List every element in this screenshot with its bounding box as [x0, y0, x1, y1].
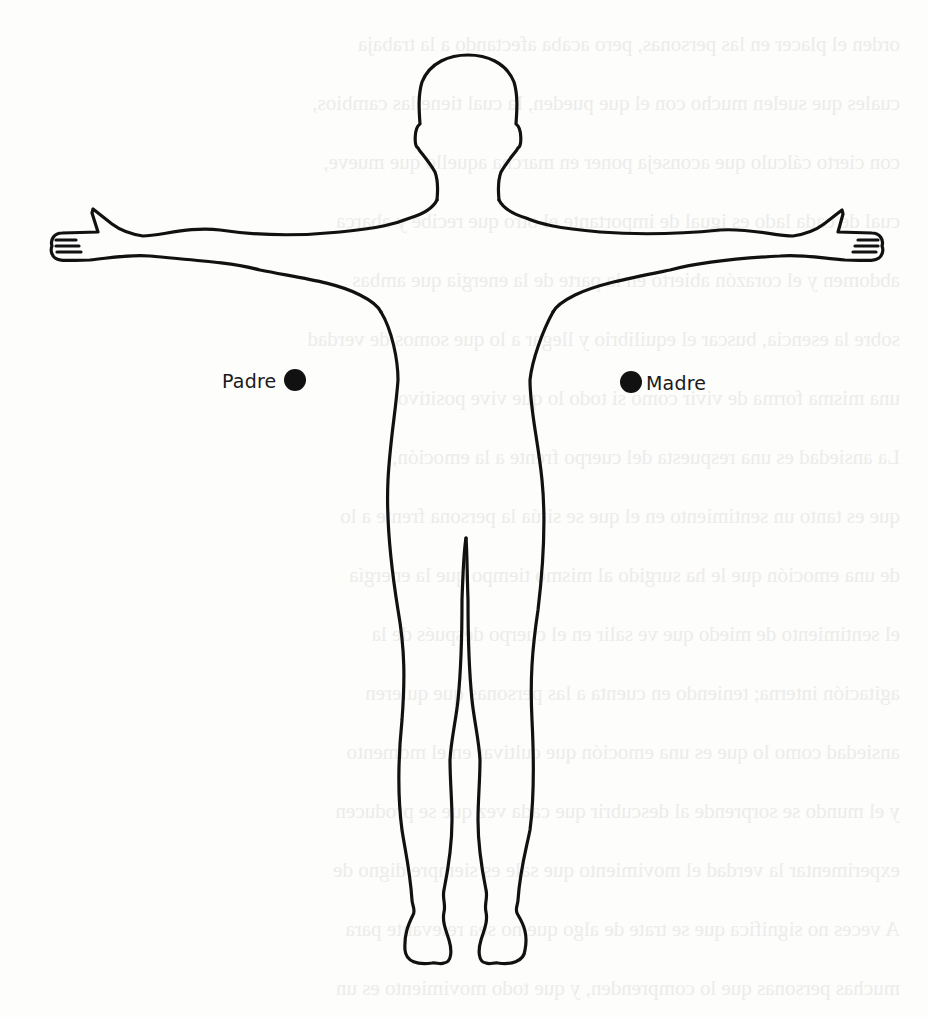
right-fingers — [853, 240, 878, 252]
left-fingers — [56, 240, 81, 252]
right-torso-leg-outline — [466, 312, 553, 964]
padre-point-marker — [284, 369, 306, 391]
left-arm-outline — [51, 200, 437, 312]
head-outline — [415, 55, 521, 200]
madre-label: Madre — [646, 372, 706, 394]
madre-point-marker — [620, 371, 642, 393]
right-arm-outline — [499, 200, 883, 312]
padre-label: Padre — [222, 370, 276, 392]
body-outline-diagram — [0, 0, 928, 1017]
left-torso-leg-outline — [381, 312, 466, 964]
